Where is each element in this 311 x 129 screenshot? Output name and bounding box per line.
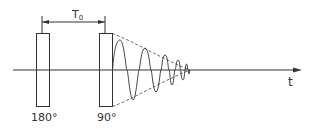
- time-axis-label: t: [288, 75, 293, 89]
- interval-label-subscript: 0: [79, 14, 83, 22]
- pulse-sequence-diagram: t T0 180° 90°: [0, 0, 311, 129]
- time-axis: [13, 68, 302, 73]
- pulse-90-label: 90°: [97, 111, 117, 124]
- pulse-180-label: 180°: [31, 111, 58, 124]
- interval-label: T0: [71, 8, 83, 22]
- axis-arrow-icon: [293, 68, 302, 73]
- dimension-arrow-left-icon: [42, 20, 49, 24]
- dimension-arrow-right-icon: [98, 20, 105, 24]
